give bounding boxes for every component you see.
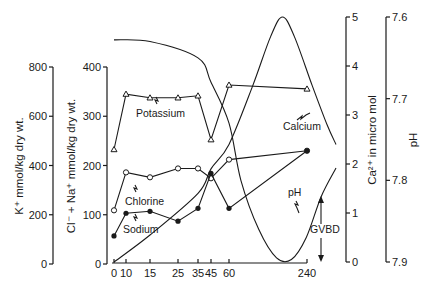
ca-tick-label: 4: [352, 60, 358, 72]
ca-axis: 012345 Ca²⁺ in micro mol: [346, 11, 378, 268]
chlorine-point: [195, 166, 200, 171]
gvbd-label: GVBD: [310, 223, 340, 235]
k-axis-label: K⁺ mmol/kg dry wt.: [13, 117, 25, 214]
chart: 0200400600800 K⁺ mmol/kg dry wt. 0100200…: [0, 0, 428, 287]
k-tick-label: 200: [29, 209, 47, 221]
ph-tick-label: 7.7: [392, 93, 407, 105]
x-tick-label: 0: [111, 267, 117, 279]
potassium-point: [195, 93, 201, 98]
chlorine-point: [123, 170, 128, 175]
x-tick-label: 15: [144, 267, 156, 279]
ca-tick-label: 5: [352, 11, 358, 23]
ca-tick-label: 0: [352, 256, 358, 268]
ca-tick-label: 3: [352, 109, 358, 121]
ph-tick-label: 7.8: [392, 174, 407, 186]
potassium-point: [111, 146, 117, 151]
k-tick-label: 0: [41, 258, 47, 270]
sodium-point: [123, 211, 128, 216]
sodium-point: [195, 206, 200, 211]
x-tick-label: 45: [205, 267, 217, 279]
chlorine-point: [175, 166, 180, 171]
clna-tick-label: 0: [95, 258, 101, 270]
ca-tick-label: 1: [352, 207, 358, 219]
chlorine-point: [147, 175, 152, 180]
sodium-pointer-icon: [134, 214, 137, 221]
sodium-point: [304, 148, 309, 153]
k-axis: 0200400600800 K⁺ mmol/kg dry wt.: [13, 61, 53, 270]
clna-tick-label: 100: [83, 209, 101, 221]
sodium-point: [175, 219, 180, 224]
sodium-point: [111, 233, 116, 238]
ph-axis: 7.97.87.77.6 pH: [386, 11, 419, 268]
calcium-pointer-icon: [297, 113, 310, 120]
clna-tick-label: 200: [83, 160, 101, 172]
ph-pointer-icon: [295, 201, 299, 213]
ph-axis-label: pH: [407, 133, 419, 148]
potassium-point: [208, 137, 214, 142]
chlorine-pointer-icon: [134, 185, 137, 192]
x-tick-label: 60: [223, 267, 235, 279]
ph-tick-label: 7.9: [392, 256, 407, 268]
chlorine-point: [111, 208, 116, 213]
sodium-label: Sodium: [123, 223, 159, 235]
k-tick-label: 600: [29, 110, 47, 122]
ph-label: pH: [288, 186, 301, 198]
clna-tick-label: 300: [83, 110, 101, 122]
chlorine-label: Chlorine: [125, 195, 164, 207]
x-tick-label: 10: [120, 267, 132, 279]
x-tick-label: 35: [192, 267, 204, 279]
potassium-point: [123, 91, 129, 96]
sodium-point: [147, 209, 152, 214]
calcium-label: Calcium: [283, 120, 321, 132]
k-tick-label: 800: [29, 61, 47, 73]
sodium-point: [208, 171, 213, 176]
clna-axis-label: Cl⁻ + Na⁺ mmol/kg dry wt.: [65, 99, 77, 233]
potassium-label: Potassium: [136, 107, 185, 119]
clna-axis: 0100200300400 Cl⁻ + Na⁺ mmol/kg dry wt.: [65, 61, 107, 270]
chlorine-point: [226, 157, 231, 162]
ph-tick-label: 7.6: [392, 11, 407, 23]
ca-tick-label: 2: [352, 158, 358, 170]
clna-tick-label: 400: [83, 61, 101, 73]
k-tick-label: 400: [29, 160, 47, 172]
ca-axis-label: Ca²⁺ in micro mol: [366, 95, 378, 185]
sodium-point: [226, 206, 231, 211]
x-tick-label: 240: [298, 267, 316, 279]
x-tick-label: 25: [172, 267, 184, 279]
